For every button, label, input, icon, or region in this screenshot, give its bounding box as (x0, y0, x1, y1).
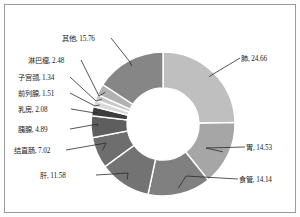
slice-label-cervix: 子宫颈, 1.34 (18, 74, 54, 83)
slice-label-lung: 肺, 24.66 (241, 55, 267, 64)
leader-line (209, 58, 240, 77)
slice-label-stomach: 胃, 14.53 (246, 144, 272, 153)
slice-label-colorectal: 结直肠, 7.02 (14, 147, 50, 156)
donut-slice (163, 52, 235, 123)
slice-label-esophagus: 食管, 14.14 (239, 176, 272, 185)
slice-label-lymphoma: 淋巴瘤, 2.48 (28, 57, 64, 66)
slice-label-liver: 肝, 11.58 (40, 172, 66, 181)
chart-screenshot: 其他, 15.76 淋巴瘤, 2.48 子宫颈, 1.34 前列腺, 1.51 … (0, 0, 300, 217)
slice-label-prostate: 前列腺, 1.51 (18, 90, 54, 99)
slice-label-other: 其他, 15.76 (62, 35, 95, 44)
slice-label-pancreas: 胰腺, 4.89 (18, 126, 47, 135)
slice-label-breast: 乳房, 2.08 (18, 106, 47, 115)
